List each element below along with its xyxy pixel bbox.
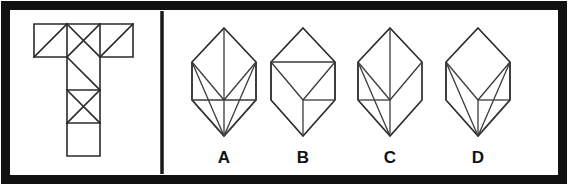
option-c-label: C [384, 148, 396, 167]
option-b-label: B [297, 148, 309, 167]
option-d-label: D [472, 148, 484, 167]
option-a-label: A [218, 148, 230, 167]
puzzle-figure: A B [0, 0, 568, 185]
puzzle-canvas: A B [0, 0, 568, 185]
